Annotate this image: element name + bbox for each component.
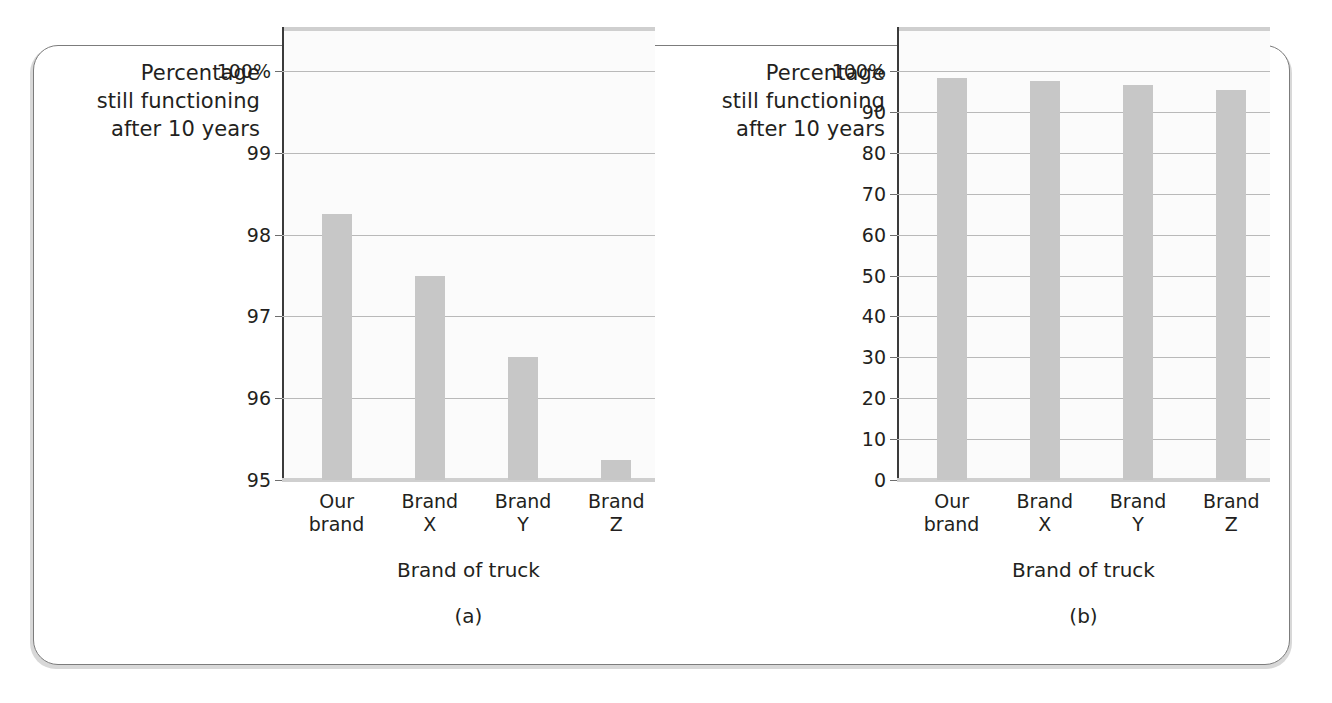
bar [1216,90,1246,480]
y-axis-tick [890,276,897,277]
y-axis-tick [275,316,282,317]
chart-panel-a: Percentage still functioning after 10 ye… [40,0,660,620]
y-axis-tick [890,153,897,154]
y-axis-tick-label: 60 [862,224,886,246]
y-axis-tick-label: 90 [862,101,886,123]
y-axis-tick [890,439,897,440]
y-axis-tick [890,71,897,72]
x-axis-tick-label: Brand X [402,490,459,536]
y-axis-tick-label: 30 [862,346,886,368]
y-axis-tick-label: 0 [874,469,886,491]
gridline [282,71,655,72]
y-axis-tick-label: 80 [862,142,886,164]
x-axis-tick-label: Brand Z [1203,490,1260,536]
y-axis-tick-label: 10 [862,428,886,450]
y-axis-spine-b [897,27,899,482]
plot-area-a: 9596979899100%Our brandBrand XBrand YBra… [282,27,655,482]
y-axis-tick-label: 40 [862,305,886,327]
x-axis-tick-label: Brand Z [588,490,645,536]
y-axis-tick [890,316,897,317]
y-axis-tick-label: 70 [862,183,886,205]
y-axis-tick [890,194,897,195]
y-axis-tick [275,71,282,72]
gridline [282,153,655,154]
x-axis-title-b: Brand of truck [897,558,1270,582]
y-axis-tick [275,153,282,154]
y-axis-tick [275,398,282,399]
y-axis-tick [890,235,897,236]
y-axis-tick-label: 20 [862,387,886,409]
y-axis-tick-label: 98 [247,224,271,246]
x-axis-title-a: Brand of truck [282,558,655,582]
bar [601,460,631,480]
bar [322,214,352,480]
y-axis-tick-label: 95 [247,469,271,491]
chart-panel-b: Percentage still functioning after 10 ye… [655,0,1275,620]
y-axis-tick [890,357,897,358]
x-axis-tick-label: Our brand [924,490,980,536]
figure-root: Percentage still functioning after 10 ye… [0,0,1332,703]
plot-area-b: 0102030405060708090100%Our brandBrand XB… [897,27,1270,482]
x-axis-tick-label: Our brand [309,490,365,536]
y-axis-tick [890,398,897,399]
y-axis-tick [890,112,897,113]
x-axis-tick-label: Brand Y [1110,490,1167,536]
y-axis-tick-label: 50 [862,265,886,287]
y-axis-tick [275,480,282,481]
y-axis-tick-label: 100% [217,60,271,82]
panel-caption-b: (b) [897,604,1270,628]
gridline [897,71,1270,72]
panel-caption-a: (a) [282,604,655,628]
bar [508,357,538,480]
bar [1030,81,1060,480]
x-axis-tick-label: Brand Y [495,490,552,536]
y-axis-tick-label: 99 [247,142,271,164]
plot-top-rule-a [282,27,655,31]
y-axis-spine-a [282,27,284,482]
y-axis-tick-label: 97 [247,305,271,327]
bar [415,276,445,481]
y-axis-tick [275,235,282,236]
x-axis-tick-label: Brand X [1017,490,1074,536]
y-axis-tick [890,480,897,481]
bar [937,78,967,480]
plot-top-rule-b [897,27,1270,31]
y-axis-tick-label: 100% [832,60,886,82]
bar [1123,85,1153,480]
y-axis-tick-label: 96 [247,387,271,409]
